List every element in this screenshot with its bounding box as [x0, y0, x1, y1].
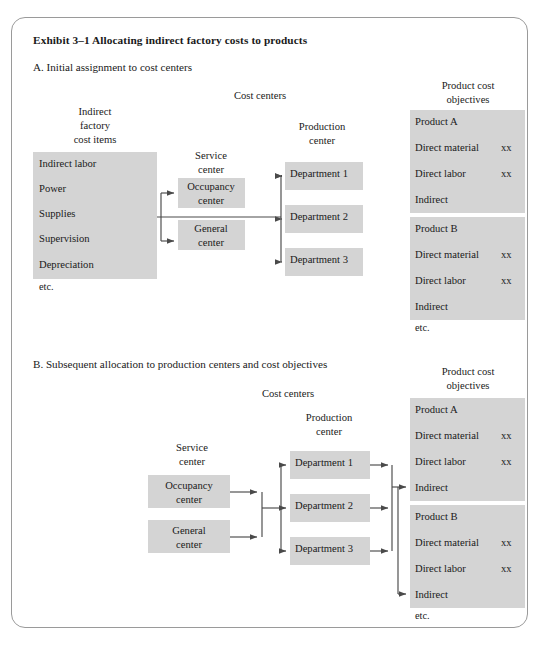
section-a-service-center-occupancy-l2: center — [198, 195, 224, 206]
section-a-product-a-row-1-value: xx — [501, 168, 512, 179]
section-b-product-objectives-header-l1: Product cost — [442, 366, 495, 377]
section-a-indirect-items-header-l2: factory — [80, 120, 111, 131]
section-a-product-objectives-header-l1: Product cost — [442, 80, 495, 91]
section-a-indirect-item-2: Supplies — [39, 208, 76, 219]
section-a-product-b-row-0-label: Direct material — [415, 249, 479, 260]
section-b-department-2-label: Department 2 — [295, 500, 353, 511]
section-a-service-center-occupancy-l1: Occupancy — [187, 181, 235, 192]
section-a-service-center-header-l2: center — [198, 164, 224, 175]
section-b-product-b-row-2-label: Indirect — [415, 589, 448, 600]
section-b-cost-centers-header: Cost centers — [262, 388, 314, 399]
section-b-service-center-general-l1: General — [172, 525, 206, 536]
section-b-product-a-row-0-value: xx — [501, 430, 512, 441]
section-a-service-center-general-l2: center — [198, 237, 224, 248]
section-b-production-center-header-l1: Production — [306, 412, 353, 423]
section-a-department-2-label: Department 2 — [290, 211, 348, 222]
section-b-product-a-row-2-label: Indirect — [415, 482, 448, 493]
section-a-indirect-item-4: Depreciation — [39, 259, 94, 270]
section-a-department-3-label: Department 3 — [290, 254, 348, 265]
section-a-indirect-items-header-l3: cost items — [74, 134, 117, 145]
section-a-product-b-name: Product B — [415, 223, 458, 234]
section-b-service-center-occupancy-l1: Occupancy — [165, 480, 213, 491]
section-a-service-center-general-l1: General — [194, 223, 228, 234]
section-b-products-etc: etc. — [415, 610, 430, 621]
section-b-product-b-row-0-value: xx — [501, 537, 512, 548]
section-b-product-b-row-1-label: Direct labor — [415, 563, 466, 574]
section-b-service-center-general-l2: center — [176, 539, 202, 550]
section-b-service-center-occupancy-l2: center — [176, 494, 202, 505]
section-b-production-center-header-l2: center — [316, 426, 342, 437]
section-b-product-a-row-1-value: xx — [501, 456, 512, 467]
section-b-heading: B. Subsequent allocation to production c… — [33, 358, 327, 370]
section-a-indirect-items-header-l1: Indirect — [79, 106, 112, 117]
section-a-indirect-item-3: Supervision — [39, 233, 90, 244]
section-a-product-b-row-2-label: Indirect — [415, 301, 448, 312]
section-a-production-center-header-l1: Production — [299, 121, 346, 132]
section-b-department-3-label: Department 3 — [295, 543, 353, 554]
section-a-production-center-header-l2: center — [309, 135, 335, 146]
section-a-product-a-row-1-label: Direct labor — [415, 168, 466, 179]
section-a-cost-centers-header: Cost centers — [234, 90, 286, 101]
section-a-product-b-row-0-value: xx — [501, 249, 512, 260]
section-b-department-1-label: Department 1 — [295, 457, 353, 468]
section-a-product-b-row-1-label: Direct labor — [415, 275, 466, 286]
exhibit-title: Exhibit 3–1 Allocating indirect factory … — [33, 34, 308, 46]
section-a-product-a-row-0-value: xx — [501, 142, 512, 153]
section-b-product-b-name: Product B — [415, 511, 458, 522]
section-b-product-b-row-1-value: xx — [501, 563, 512, 574]
section-a-product-a-name: Product A — [415, 116, 458, 127]
section-a-indirect-item-0: Indirect labor — [39, 158, 97, 169]
section-a-indirect-items-etc: etc. — [39, 281, 54, 292]
section-b-service-center-header-l1: Service — [176, 442, 208, 453]
section-b-product-b-row-0-label: Direct material — [415, 537, 479, 548]
section-a-product-a-row-2-label: Indirect — [415, 194, 448, 205]
section-a-products-etc: etc. — [415, 322, 430, 333]
section-b-product-a-row-1-label: Direct labor — [415, 456, 466, 467]
section-a-department-1-label: Department 1 — [290, 168, 348, 179]
section-a-product-b-row-1-value: xx — [501, 275, 512, 286]
section-b-product-objectives-header-l2: objectives — [447, 380, 490, 391]
section-b-product-a-name: Product A — [415, 404, 458, 415]
section-a-service-center-header-l1: Service — [195, 150, 227, 161]
section-a-heading: A. Initial assignment to cost centers — [33, 61, 192, 73]
section-a-product-a-row-0-label: Direct material — [415, 142, 479, 153]
section-b-product-a-row-0-label: Direct material — [415, 430, 479, 441]
exhibit-diagram: Exhibit 3–1 Allocating indirect factory … — [0, 0, 543, 651]
section-b-service-center-header-l2: center — [179, 456, 205, 467]
section-a-product-objectives-header-l2: objectives — [447, 94, 490, 105]
section-a-indirect-item-1: Power — [39, 183, 67, 194]
